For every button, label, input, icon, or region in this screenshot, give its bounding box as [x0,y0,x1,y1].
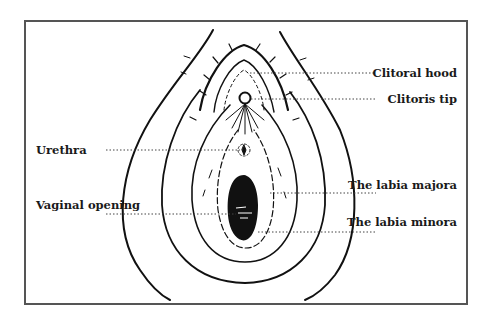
label-labia-majora: The labia majora [348,178,457,192]
urethra-opening [242,145,246,155]
label-clitoris-tip: Clitoris tip [388,92,458,106]
clitoris-tip [240,93,251,104]
label-clitoral-hood: Clitoral hood [373,66,458,80]
anatomy-drawing [0,0,493,324]
labia-majora-outer-left [123,30,213,300]
label-urethra: Urethra [36,143,87,157]
labia-majora-outer-right [280,32,354,300]
label-vaginal-opening: Vaginal opening [36,198,140,212]
label-labia-minora: The labia minora [347,215,457,229]
